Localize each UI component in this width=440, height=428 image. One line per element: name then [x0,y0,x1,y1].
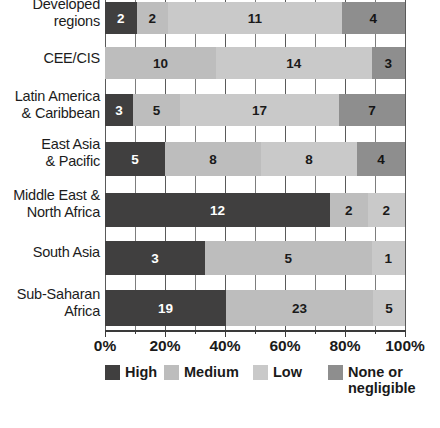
row-label-line: Developed [0,0,100,13]
bar-segment-value: 5 [285,251,293,266]
row-label-line: Middle East & [0,187,100,204]
bar-segment-value: 14 [286,56,301,71]
bar-segment-value: 4 [377,152,385,167]
row-label-line: South Asia [0,244,100,261]
bar-south-asia: 351 [105,241,405,275]
bar-developed-regions: 22114 [105,2,405,34]
x-axis-tick-labels: 0%20%40%60%80%100% [105,337,405,359]
bar-segment-high: 12 [105,193,330,227]
bar-segment-low: 17 [180,94,339,126]
bar-segment-value: 5 [131,152,139,167]
bar-segment-value: 8 [209,152,217,167]
x-tick [165,330,166,337]
bar-segment-value: 4 [370,11,378,26]
bar-segment-low: 1 [372,241,405,275]
bar-segment-high: 5 [105,142,165,176]
bar-sub-saharan-africa: 19235 [105,290,405,326]
row-label-line: & Pacific [0,153,100,170]
bar-segment-value: 5 [385,301,393,316]
bar-segment-value: 17 [252,103,267,118]
bar-segment-value: 2 [345,203,353,218]
bar-segment-value: 10 [153,56,168,71]
row-label-south-asia: South Asia [0,244,100,261]
x-tick [225,330,226,337]
x-tick [105,330,106,337]
legend-label-high: High [125,364,157,380]
bar-segment-value: 23 [292,301,307,316]
legend-item-low[interactable]: Low [253,364,302,380]
bar-segment-medium: 10 [105,47,216,79]
bar-segment-value: 1 [385,251,393,266]
bar-segment-medium: 23 [226,290,373,326]
x-tick [285,330,286,337]
bar-segment-value: 8 [305,152,313,167]
gridline [405,0,406,330]
row-label-developed-regions: Developedregions [0,0,100,29]
row-label-line: Latin America [0,88,100,105]
row-label-line: CEE/CIS [0,50,100,67]
bar-segment-value: 7 [368,103,376,118]
bar-middle-east-north-africa: 1222 [105,193,405,227]
legend-swatch-high [105,365,120,380]
chart-legend: HighMediumLowNone or negligible [105,364,440,420]
row-label-line: Sub-Saharan [0,286,100,303]
row-label-line: & Caribbean [0,105,100,122]
legend-swatch-medium [164,365,179,380]
bar-segment-low: 8 [261,142,357,176]
x-tick [405,330,406,337]
x-tick-label: 100% [385,337,425,355]
x-tick [135,330,136,334]
bar-segment-medium: 2 [330,193,368,227]
legend-item-none[interactable]: None or negligible [328,364,416,396]
bar-segment-value: 3 [385,56,393,71]
bar-segment-value: 2 [117,11,125,26]
bar-segment-none: 7 [339,94,405,126]
bar-segment-value: 12 [210,203,225,218]
bar-segment-value: 11 [248,11,262,26]
bar-segment-medium: 8 [165,142,261,176]
legend-swatch-low [253,365,268,380]
row-label-line: Africa [0,303,100,320]
x-tick [345,330,346,337]
bar-segment-value: 2 [148,11,156,26]
bar-segment-value: 3 [115,103,123,118]
row-label-latin-america-caribbean: Latin America& Caribbean [0,88,100,121]
bar-segment-low: 2 [368,193,406,227]
row-label-east-asia-pacific: East Asia& Pacific [0,136,100,169]
row-label-line: East Asia [0,136,100,153]
legend-item-medium[interactable]: Medium [164,364,239,380]
bar-segment-medium: 5 [205,241,372,275]
bar-segment-low: 11 [168,2,342,34]
bar-segment-value: 5 [153,103,161,118]
bar-segment-high: 19 [105,290,226,326]
row-label-sub-saharan-africa: Sub-SaharanAfrica [0,286,100,319]
x-tick-label: 40% [209,337,240,355]
bar-segment-high: 3 [105,94,133,126]
x-tick [195,330,196,334]
x-tick [255,330,256,334]
bar-segment-medium: 2 [137,2,169,34]
bar-segment-value: 2 [382,203,390,218]
bar-segment-medium: 5 [133,94,180,126]
row-label-cee-cis: CEE/CIS [0,50,100,67]
legend-label-medium: Medium [184,364,239,380]
row-label-middle-east-north-africa: Middle East &North Africa [0,187,100,220]
row-label-line: regions [0,13,100,30]
bar-segment-low: 5 [373,290,405,326]
bar-segment-none: 4 [357,142,405,176]
stacked-bar-chart: Developedregions22114CEE/CIS10143Latin A… [0,0,440,428]
x-tick-label: 0% [94,337,116,355]
legend-label-low: Low [273,364,302,380]
bar-segment-high: 2 [105,2,137,34]
bar-cee-cis: 10143 [105,47,405,79]
bar-east-asia-pacific: 5884 [105,142,405,176]
x-tick-label: 20% [149,337,180,355]
x-tick [375,330,376,334]
bar-latin-america-caribbean: 35177 [105,94,405,126]
legend-item-high[interactable]: High [105,364,157,380]
bar-segment-value: 19 [158,301,173,316]
bar-segment-none: 4 [342,2,405,34]
x-tick-label: 80% [329,337,360,355]
bar-segment-value: 3 [151,251,159,266]
bar-segment-high: 3 [105,241,205,275]
